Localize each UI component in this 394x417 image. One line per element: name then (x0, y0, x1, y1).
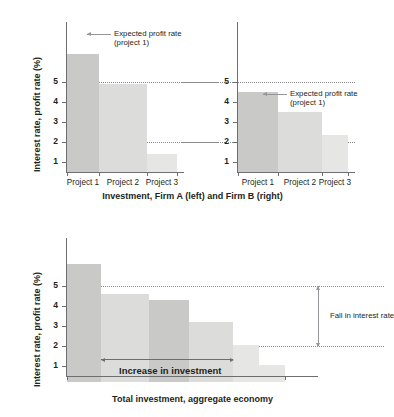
aggregate-economy-chart: 5 4 3 2 1 Fall in interest rate Increase… (66, 238, 318, 384)
aggregate-tick-5 (62, 286, 66, 287)
firm-b-xtick-1 (278, 172, 279, 176)
bar-firm-a-project-1 (67, 54, 99, 172)
increase-in-investment-arrow (101, 359, 233, 360)
firm-a-tick-3 (62, 122, 66, 123)
firm-b-xlabel-project-3: Project 3 (306, 178, 364, 188)
firm-a-xtick-0 (67, 172, 68, 176)
firm-b-tick-3 (233, 122, 237, 123)
bar-firm-a-project-2 (99, 84, 147, 172)
top-panel-y-axis-title: Interest rate, profit rate (%) (32, 57, 42, 172)
bottom-panel-x-axis-title: Total investment, aggregate economy (0, 394, 385, 404)
bar-firm-b-project-1 (238, 92, 278, 172)
firm-b-tick-4 (233, 102, 237, 103)
firm-b-ticklabel-5: 5 (215, 77, 229, 86)
firm-a-tick-4 (62, 102, 66, 103)
firm-b-xtick-2 (322, 172, 323, 176)
aggregate-ticklabel-4: 4 (44, 301, 58, 310)
firm-b-xtick-0 (238, 172, 239, 176)
firm-b-tick-1 (233, 162, 237, 163)
firm-a-xlabel-project-3: Project 3 (133, 178, 191, 188)
bar-aggregate-6 (259, 365, 285, 382)
firm-a-tick-2 (62, 142, 66, 143)
firm-a-chart: 5 4 3 2 1 Project 1 Project 2 Project 3 … (66, 22, 184, 174)
fall-in-interest-rate-arrow (318, 286, 319, 346)
firm-a-ticklabel-1: 1 (44, 157, 58, 166)
firm-b-x-axis (237, 172, 355, 173)
aggregate-ticklabel-1: 1 (44, 361, 58, 370)
firm-a-y-axis (66, 22, 67, 172)
aggregate-tick-4 (62, 306, 66, 307)
reference-line-5 (66, 286, 384, 287)
firm-a-xtick-2 (147, 172, 148, 176)
firm-b-annotation-arrow (263, 94, 287, 95)
firm-b-ticklabel-2: 2 (215, 137, 229, 146)
firm-a-ticklabel-2: 2 (44, 137, 58, 146)
firm-b-chart: 5 4 3 2 1 Project 1 Project 2 Project 3 … (237, 22, 355, 174)
firm-a-annotation-line-2: (project 1) (114, 38, 149, 48)
fall-in-interest-rate-label: Fall in interest rate (330, 311, 394, 321)
top-panel-x-axis-title: Investment, Firm A (left) and Firm B (ri… (0, 191, 385, 201)
firm-b-xtick-3 (348, 172, 349, 176)
aggregate-x-axis (66, 376, 318, 377)
increase-in-investment-label: Increase in investment (119, 365, 221, 376)
firm-a-xtick-1 (99, 172, 100, 176)
aggregate-y-axis (66, 238, 67, 376)
aggregate-tick-3 (62, 326, 66, 327)
firm-a-tick-5 (62, 82, 66, 83)
bar-firm-b-project-2 (278, 112, 322, 172)
firm-b-tick-2 (233, 142, 237, 143)
aggregate-ticklabel-3: 3 (44, 321, 58, 330)
reference-line-5 (181, 82, 355, 83)
bar-aggregate-1 (67, 264, 101, 382)
aggregate-tick-2 (62, 346, 66, 347)
firm-a-ticklabel-4: 4 (44, 97, 58, 106)
firm-b-ticklabel-1: 1 (215, 157, 229, 166)
top-panel: Interest rate, profit rate (%) 5 4 3 2 1… (0, 0, 385, 210)
firm-a-xtick-3 (177, 172, 178, 176)
firm-a-tick-1 (62, 162, 66, 163)
firm-b-ticklabel-3: 3 (215, 117, 229, 126)
firm-a-ticklabel-5: 5 (44, 77, 58, 86)
firm-a-ticklabel-3: 3 (44, 117, 58, 126)
aggregate-ticklabel-2: 2 (44, 341, 58, 350)
firm-a-annotation-arrow (87, 34, 111, 35)
aggregate-ticklabel-5: 5 (44, 281, 58, 290)
firm-a-x-axis (66, 172, 184, 173)
firm-b-y-axis (237, 22, 238, 172)
aggregate-xtick-end (285, 376, 286, 380)
firm-b-tick-5 (233, 82, 237, 83)
bar-firm-b-project-3 (322, 135, 348, 172)
bottom-panel-y-axis-title: Interest rate, profit rate (%) (32, 272, 42, 387)
aggregate-xtick-start (67, 376, 68, 380)
bottom-panel: Interest rate, profit rate (%) 5 4 3 2 1… (0, 222, 385, 417)
bar-firm-a-project-3 (147, 154, 177, 172)
aggregate-tick-1 (62, 366, 66, 367)
firm-b-ticklabel-4: 4 (215, 97, 229, 106)
firm-b-annotation-line-2: (project 1) (290, 98, 325, 108)
